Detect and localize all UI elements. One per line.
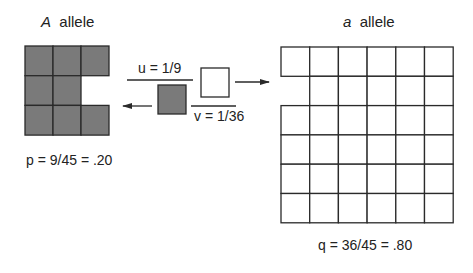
grid-cell	[367, 194, 396, 223]
grid-cell	[310, 47, 339, 76]
grid-cell	[53, 105, 81, 135]
grid-cell	[338, 76, 367, 105]
grid-cell	[310, 135, 339, 164]
grid-cell	[281, 194, 310, 223]
grid-cell	[53, 46, 81, 76]
grid-cell	[367, 106, 396, 135]
grid-cell	[25, 105, 53, 135]
grid-cell	[396, 47, 425, 76]
grid-cell	[338, 194, 367, 223]
grid-cell	[338, 106, 367, 135]
grid-cell	[367, 47, 396, 76]
grid-cell	[310, 106, 339, 135]
grid-cell	[281, 47, 310, 76]
grid-cell	[425, 106, 454, 135]
right-allele-grid	[281, 47, 453, 223]
grid-cell	[396, 135, 425, 164]
grid-cell	[425, 76, 454, 105]
grid-cell	[338, 164, 367, 193]
left-allele-grid	[25, 46, 109, 135]
grid-cell	[425, 135, 454, 164]
grid-cell	[25, 76, 53, 106]
grid-cell	[396, 106, 425, 135]
grid-cell	[310, 194, 339, 223]
mutant-a-square	[201, 68, 229, 97]
u-rate-label: u = 1/9	[138, 60, 181, 76]
q-frequency-equation: q = 36/45 = .80	[318, 237, 412, 253]
grid-cell	[81, 46, 109, 76]
grid-cell	[25, 46, 53, 76]
diagram-canvas	[0, 0, 473, 273]
grid-cell	[425, 194, 454, 223]
grid-cell	[53, 76, 81, 106]
grid-cell	[281, 164, 310, 193]
grid-cell	[367, 164, 396, 193]
grid-cell	[367, 135, 396, 164]
grid-cell	[310, 164, 339, 193]
grid-cell	[396, 164, 425, 193]
grid-cell	[396, 194, 425, 223]
grid-cell	[281, 106, 310, 135]
grid-cell	[396, 76, 425, 105]
grid-cell	[81, 105, 109, 135]
p-frequency-equation: p = 9/45 = .20	[26, 152, 112, 168]
mutant-A-square	[158, 85, 186, 114]
grid-cell	[425, 47, 454, 76]
grid-cell	[425, 164, 454, 193]
v-rate-label: v = 1/36	[194, 108, 244, 124]
grid-cell	[281, 135, 310, 164]
grid-cell	[310, 76, 339, 105]
grid-cell	[338, 135, 367, 164]
grid-cell	[338, 47, 367, 76]
grid-cell	[367, 76, 396, 105]
